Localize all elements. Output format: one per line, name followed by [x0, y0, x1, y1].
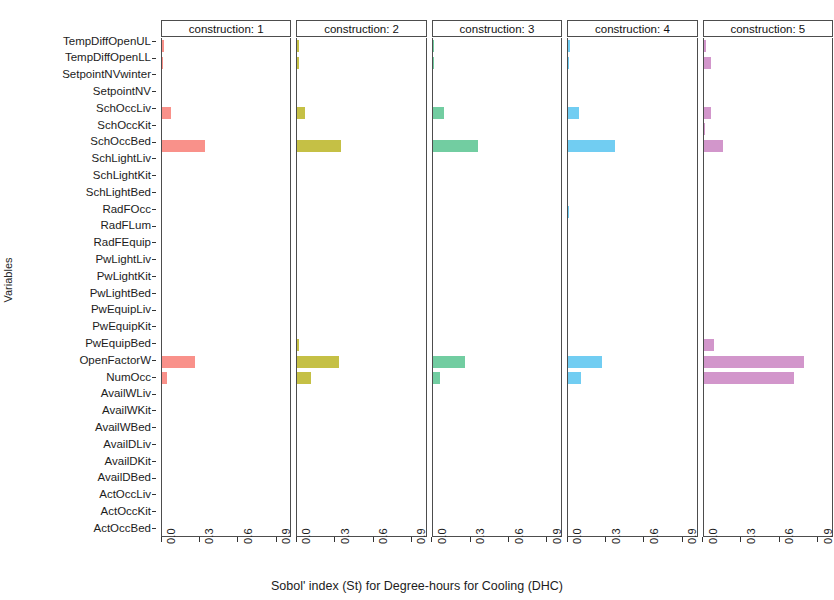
bar[interactable] [704, 40, 707, 52]
bar-row [704, 88, 832, 105]
bar[interactable] [433, 57, 434, 69]
bar[interactable] [433, 107, 444, 119]
x-tick-mark [605, 537, 606, 542]
bar-row [433, 55, 561, 72]
bar[interactable] [433, 40, 434, 52]
x-tick-mark [276, 537, 277, 542]
bar[interactable] [433, 140, 478, 152]
bar-row [297, 469, 425, 486]
bar-row [704, 138, 832, 155]
x-axis-panel-5: 0.00.30.60.9 [703, 537, 833, 577]
y-tick-label-text: AvailDBed [98, 472, 152, 484]
facet-strip-label: construction: 5 [703, 20, 833, 37]
bar[interactable] [568, 206, 569, 218]
bar-row [433, 436, 561, 453]
plot-area [703, 38, 833, 537]
bar-row [433, 254, 561, 271]
bar[interactable] [568, 57, 569, 69]
bar-row [162, 237, 290, 254]
y-tick-label: SchLightBed [16, 184, 156, 201]
y-tick-label: AvailWLiv [16, 386, 156, 403]
y-tick-label-text: PwEquipLiv [91, 304, 151, 316]
y-tick-label: SetpointNVwinter [16, 67, 156, 84]
bar-row [162, 519, 290, 536]
y-tick-label: RadFEquip [16, 235, 156, 252]
y-tick-mark [152, 142, 156, 143]
y-axis-tick-labels: TempDiffOpenULTempDiffOpenLLSetpointNVwi… [16, 33, 156, 537]
bar[interactable] [297, 107, 305, 119]
bar-row [704, 270, 832, 287]
y-tick-mark [152, 41, 156, 42]
y-tick-label: OpenFactorW [16, 352, 156, 369]
bar[interactable] [704, 140, 723, 152]
bar[interactable] [162, 372, 167, 384]
bar[interactable] [297, 40, 298, 52]
y-tick-label-text: AvailWKit [102, 405, 151, 417]
bar[interactable] [568, 40, 570, 52]
y-tick-label-text: SchLightKit [93, 170, 151, 182]
bar-row [568, 270, 696, 287]
bar[interactable] [162, 57, 163, 69]
bar[interactable] [297, 140, 341, 152]
bar[interactable] [568, 107, 579, 119]
bar[interactable] [568, 140, 615, 152]
bar[interactable] [162, 140, 205, 152]
bar[interactable] [568, 356, 602, 368]
bar[interactable] [433, 356, 465, 368]
bar[interactable] [704, 339, 714, 351]
x-tick-label: 0.0 [300, 528, 312, 544]
y-tick-label-text: SetpointNV [93, 86, 151, 98]
bar-row [162, 353, 290, 370]
bar-row [704, 237, 832, 254]
y-tick-mark [152, 444, 156, 445]
x-tick-mark [702, 537, 703, 542]
bar-group [704, 38, 832, 536]
x-axis-panel-2: 0.00.30.60.9 [296, 537, 426, 577]
y-tick-label-text: RadFLum [101, 220, 152, 232]
y-tick-mark [152, 326, 156, 327]
bar-row [568, 304, 696, 321]
y-tick-mark [152, 226, 156, 227]
x-tick-mark [508, 537, 509, 542]
bar[interactable] [297, 57, 299, 69]
bar[interactable] [704, 372, 795, 384]
y-tick-mark [152, 377, 156, 378]
bar-row [568, 370, 696, 387]
bar-row [704, 386, 832, 403]
y-tick-label-text: AvailDLiv [103, 439, 151, 451]
bar-row [297, 138, 425, 155]
x-tick-label: 0.3 [474, 528, 486, 544]
y-tick-label-text: SchOccLiv [96, 103, 151, 115]
bar-row [297, 71, 425, 88]
bar-row [162, 453, 290, 470]
bar-row [704, 104, 832, 121]
bar-row [433, 420, 561, 437]
bar[interactable] [297, 356, 339, 368]
bar[interactable] [568, 372, 581, 384]
bar-row [297, 287, 425, 304]
bar[interactable] [162, 107, 171, 119]
bar[interactable] [704, 107, 711, 119]
bar-row [162, 154, 290, 171]
bar-row [704, 187, 832, 204]
bar[interactable] [162, 40, 164, 52]
bar-row [162, 104, 290, 121]
facet-panel-2: construction: 2 [296, 20, 426, 537]
y-tick-label-text: OpenFactorW [79, 355, 151, 367]
bar-row [704, 370, 832, 387]
bar[interactable] [297, 339, 298, 351]
bar[interactable] [297, 372, 311, 384]
y-tick-label-text: PwLightBed [90, 288, 151, 300]
bar[interactable] [162, 356, 195, 368]
bar-row [297, 304, 425, 321]
y-tick-mark [152, 478, 156, 479]
y-tick-mark [152, 511, 156, 512]
bar-group [297, 38, 425, 536]
bar[interactable] [704, 57, 711, 69]
bar[interactable] [433, 372, 441, 384]
y-tick-label-text: AvailDKit [105, 456, 151, 468]
bar-row [162, 337, 290, 354]
x-tick-mark [779, 537, 780, 542]
bar[interactable] [704, 356, 805, 368]
bar[interactable] [704, 123, 706, 135]
